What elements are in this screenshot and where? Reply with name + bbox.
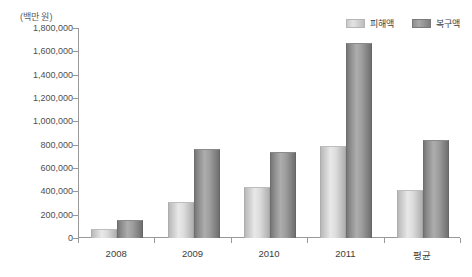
y-axis-tick-label: 1,000,000: [33, 116, 73, 126]
x-axis-separator: [231, 238, 232, 243]
legend-swatch-restoration-icon: [412, 19, 431, 28]
bar: [244, 187, 270, 238]
x-axis-label: 2008: [106, 248, 127, 259]
y-axis-unit-label: (백만 원): [20, 10, 53, 23]
x-axis-separator: [384, 238, 385, 243]
y-axis-tick-label: 1,600,000: [33, 46, 73, 56]
y-axis-tick-label: 400,000: [40, 186, 73, 196]
bar-groups: [78, 28, 460, 238]
y-axis-tick-label: 1,200,000: [33, 93, 73, 103]
bar: [346, 43, 372, 238]
y-axis-tick-label: 600,000: [40, 163, 73, 173]
x-axis-separator: [78, 238, 79, 243]
x-axis-label: 2009: [182, 248, 203, 259]
x-axis-label: 2010: [258, 248, 279, 259]
y-axis-tick-label: 200,000: [40, 210, 73, 220]
bar: [320, 146, 346, 238]
bar: [270, 152, 296, 238]
x-axis-separator: [307, 238, 308, 243]
bar-group: [168, 28, 218, 238]
y-axis-tick-label: 1,400,000: [33, 70, 73, 80]
bar: [194, 149, 220, 238]
bar-group: [397, 28, 447, 238]
bar: [423, 140, 449, 238]
x-axis-labels: 2008200920102011평균: [78, 248, 460, 268]
y-axis-tick-label: 800,000: [40, 140, 73, 150]
bar-chart: (백만 원) 피해액 복구액 0200,000400,000600,000800…: [0, 0, 472, 277]
x-axis-label: 2011: [335, 248, 355, 259]
plot-area: 0200,000400,000600,000800,0001,000,0001,…: [78, 28, 460, 238]
bar: [91, 229, 117, 238]
y-axis-tick-label: 0: [68, 233, 73, 243]
y-axis-tick-label: 1,800,000: [33, 23, 73, 33]
bar: [117, 220, 143, 239]
x-axis-label: 평균: [413, 248, 431, 262]
bar-group: [244, 28, 294, 238]
bar-group: [320, 28, 370, 238]
legend-swatch-damage-icon: [346, 19, 365, 28]
x-axis-separator: [154, 238, 155, 243]
x-axis-separator: [460, 238, 461, 243]
bar: [397, 190, 423, 238]
bar: [168, 202, 194, 238]
bar-group: [91, 28, 141, 238]
